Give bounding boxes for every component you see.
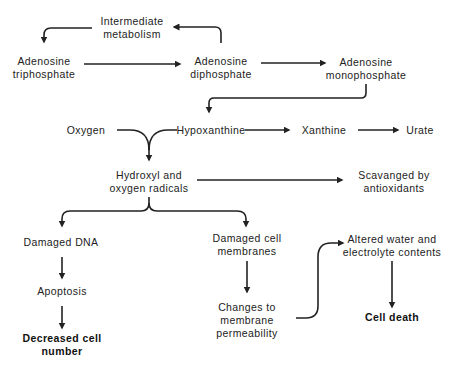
node-altered-water: Altered water and electrolyte contents (343, 233, 441, 259)
arrow-permeability-to-altered (296, 243, 343, 318)
node-damaged-membranes: Damaged cell membranes (213, 232, 282, 258)
node-xanthine: Xanthine (302, 124, 347, 137)
node-intermediate-metabolism: Intermediate metabolism (100, 15, 163, 41)
arrow-radicals-branch (62, 197, 149, 226)
node-decreased-cell-number: Decreased cell number (22, 332, 101, 358)
node-oxygen: Oxygen (67, 124, 106, 137)
arrow-adp-to-metabolism (174, 27, 221, 43)
node-permeability: Changes to membrane permeability (216, 301, 277, 340)
arrow-oxygen-merge (117, 130, 149, 150)
node-adp: Adenosine diphosphate (190, 55, 252, 81)
node-scavenged: Scavanged by antioxidants (358, 169, 429, 195)
node-apoptosis: Apoptosis (37, 285, 87, 298)
arrow-hypoxanthine-merge (149, 130, 177, 150)
node-hypoxanthine: Hypoxanthine (176, 124, 245, 137)
node-cell-death: Cell death (365, 311, 419, 324)
node-amp: Adenosine monophosphate (326, 56, 407, 82)
ischemia-flow-diagram: Intermediate metabolism Adenosine tripho… (0, 0, 450, 375)
node-urate: Urate (406, 124, 434, 137)
node-radicals: Hydroxyl and oxygen radicals (110, 169, 189, 195)
node-atp: Adenosine triphosphate (13, 55, 76, 81)
node-damaged-dna: Damaged DNA (23, 236, 98, 249)
arrow-metabolism-to-atp (44, 28, 92, 42)
arrow-amp-to-hypoxanthine (209, 84, 366, 112)
